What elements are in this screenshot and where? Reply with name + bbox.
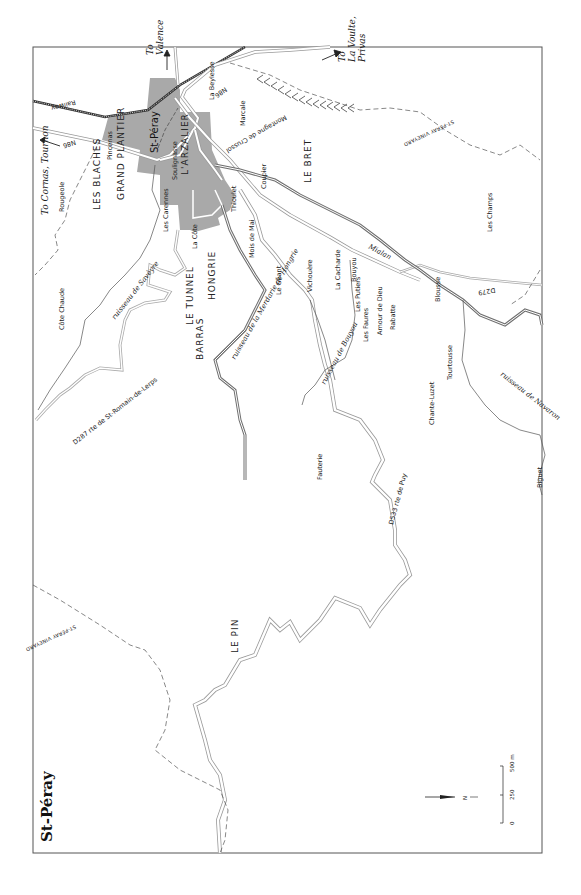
place_labels-label: La Côte	[191, 224, 199, 249]
north-label: N	[462, 796, 468, 800]
place_labels-label: Fauterie	[316, 454, 324, 480]
place_labels-label: La Cacharde	[334, 249, 342, 290]
place_labels-label: Rougeole	[58, 182, 66, 212]
place_labels-label: Chante-Luzet	[428, 381, 436, 425]
place_labels-label: Coupier	[260, 163, 268, 189]
place_labels-label: Biguet	[536, 466, 544, 488]
place_labels-label: Rabatte	[389, 304, 397, 330]
place_labels-label: Les Putiers	[354, 276, 362, 312]
destination-label: To	[145, 44, 155, 55]
destination-label: To	[337, 51, 347, 62]
place_labels-label: Côte Chaude	[58, 288, 66, 330]
map-canvas: N 0 250 500 m St-Péray St-Péray LES BLAC…	[0, 0, 581, 895]
scale-500: 500 m	[509, 754, 515, 772]
area_labels-label: GRAND PLANTIER	[116, 107, 126, 200]
place_labels-label: Mois de Mai	[248, 219, 256, 258]
area_labels-label: LE TUNNEL	[185, 266, 195, 325]
area_labels-label: L'ARZALIER	[180, 113, 190, 175]
destination-label: To Cornas, Tournon	[40, 125, 50, 215]
area_labels-label: BARRAS	[195, 318, 205, 360]
area_labels-label: LE BRET	[303, 139, 313, 183]
area_labels-label: LES BLACHES	[92, 138, 102, 210]
place_labels-label: Pincenas	[106, 131, 114, 160]
place_labels-label: Blousse	[434, 277, 442, 302]
destination-label: Privas	[357, 33, 367, 63]
place_labels-label: Tourtousse	[446, 345, 454, 381]
place_labels-label: Amour de Dieu	[376, 286, 384, 335]
place_labels-label: Les Faures	[362, 307, 370, 342]
place_labels-label: Les Champs	[486, 192, 494, 232]
area_labels-label: LE PIN	[230, 619, 240, 653]
place_labels-label: Marcale	[239, 101, 247, 126]
scale-250: 250	[509, 789, 515, 800]
destination-label: La Voulte,	[347, 16, 357, 63]
place_labels-label: Les Carennes	[162, 188, 170, 232]
town-label: St-Péray	[149, 111, 160, 153]
destination-label: Valence	[155, 20, 165, 55]
map-title: St-Péray	[38, 770, 56, 842]
area_labels-label: HONGRIE	[207, 251, 217, 300]
place_labels-label: Vichouère	[306, 260, 314, 292]
place_labels-label: Soulignasse	[171, 141, 179, 180]
scale-0: 0	[509, 821, 515, 825]
place_labels-label: Thioulet	[230, 185, 238, 213]
map-frame	[33, 47, 542, 853]
